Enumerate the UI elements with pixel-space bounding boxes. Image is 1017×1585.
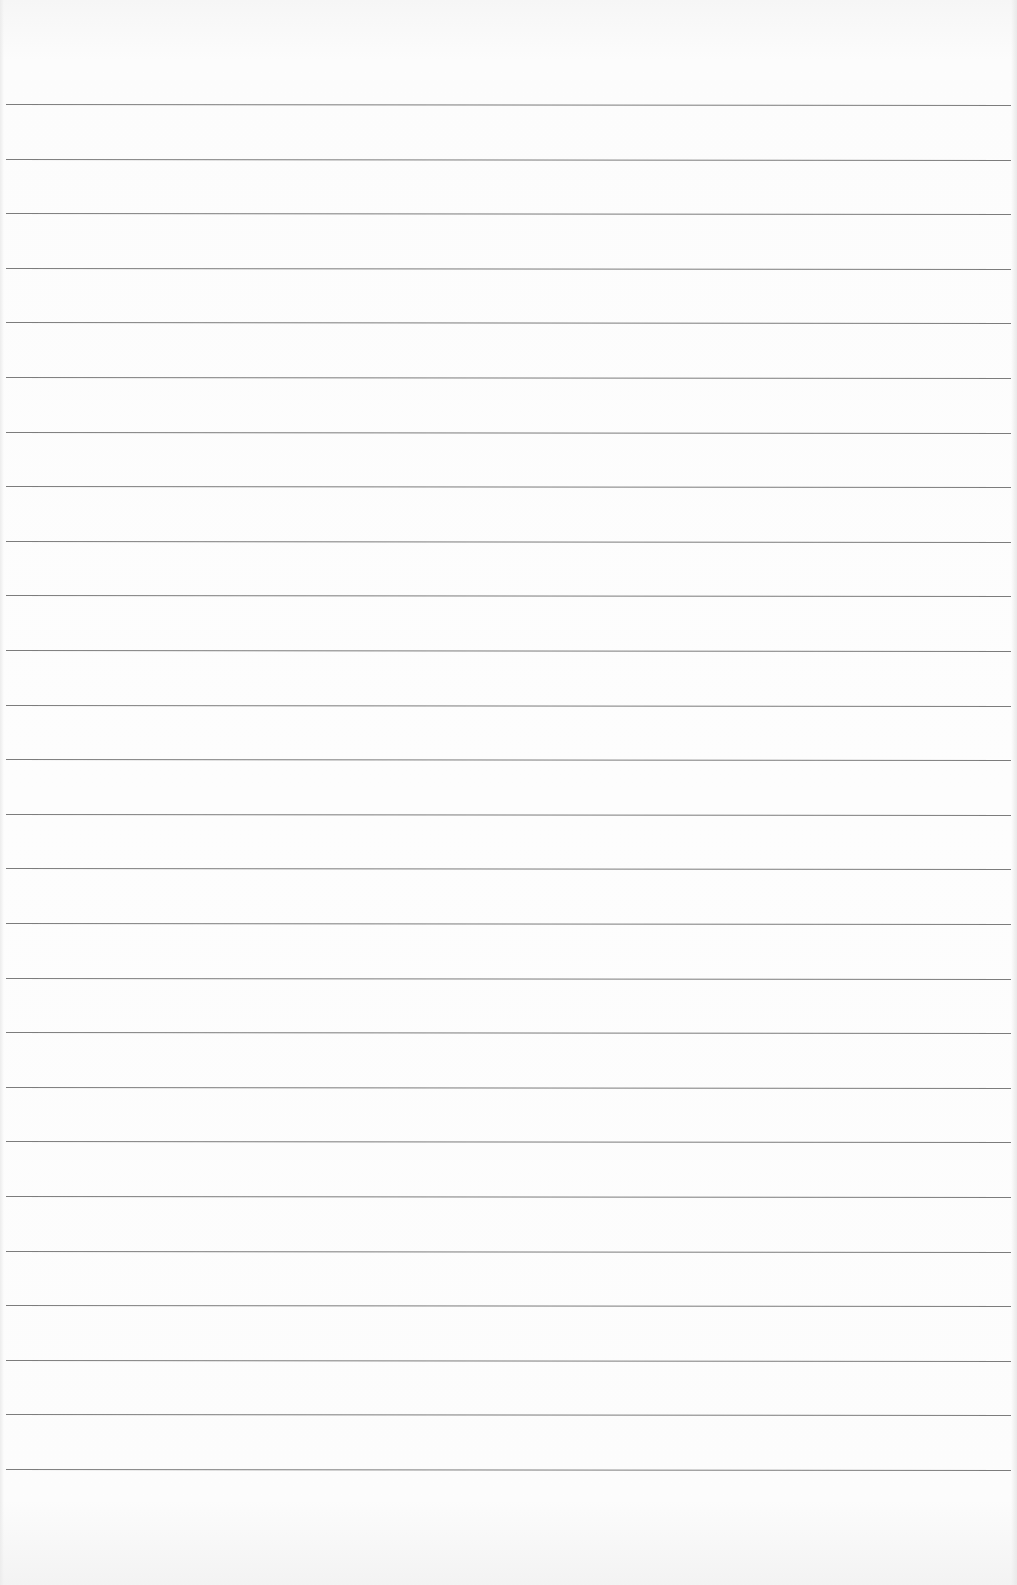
ruled-line — [6, 1305, 1011, 1307]
ruled-line — [6, 923, 1011, 925]
ruled-line — [6, 814, 1011, 816]
ruled-line — [6, 486, 1011, 488]
ruled-line — [6, 1469, 1011, 1471]
paper-right-edge — [1011, 0, 1017, 1585]
paper-left-edge — [0, 0, 4, 1585]
ruled-line — [6, 978, 1011, 980]
ruled-line — [6, 1032, 1011, 1034]
ruled-line — [6, 1087, 1011, 1089]
ruled-line — [6, 322, 1011, 324]
ruled-line — [6, 541, 1011, 543]
ruled-line — [6, 1414, 1011, 1416]
ruled-line — [6, 432, 1011, 434]
ruled-line — [6, 759, 1011, 761]
ruled-line — [6, 1251, 1011, 1253]
ruled-line — [6, 1360, 1011, 1362]
ruled-paper-sheet — [0, 0, 1017, 1585]
ruled-line — [6, 377, 1011, 379]
ruled-line — [6, 213, 1011, 215]
ruled-line — [6, 159, 1011, 161]
ruled-line — [6, 104, 1011, 106]
ruled-line — [6, 595, 1011, 597]
ruled-line — [6, 1196, 1011, 1198]
ruled-line — [6, 705, 1011, 707]
ruled-line — [6, 868, 1011, 870]
ruled-line — [6, 1141, 1011, 1143]
ruled-line — [6, 650, 1011, 652]
ruled-line — [6, 268, 1011, 270]
